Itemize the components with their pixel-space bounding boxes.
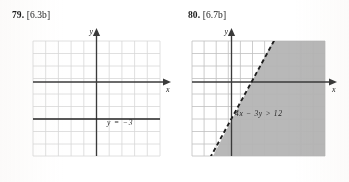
exercise-panel-79: 79. [6.3b] [0, 0, 175, 182]
graph-79-x-axis-label: x [165, 85, 170, 94]
graph-80-svg: y x 4x − 3y > 12 [174, 0, 349, 182]
graph-79-svg: y x y = −3 [0, 0, 175, 182]
graph-79-y-axis [93, 28, 100, 156]
graph-80-y-axis-label: y [224, 27, 229, 36]
exercise-panel-80: 80. [6.7b] [174, 0, 349, 182]
exercise-80-graph: y x 4x − 3y > 12 [174, 0, 349, 182]
graph-79-equation-label: y = −3 [106, 118, 133, 127]
graph-79-x-axis [33, 78, 171, 85]
graph-79-y-axis-label: y [89, 27, 94, 36]
graph-80-x-axis-label: x [331, 85, 336, 94]
exercise-79-graph: y x y = −3 [0, 0, 175, 182]
graph-80-shaded-region [213, 41, 325, 156]
graph-80-inequality-label: 4x − 3y > 12 [235, 109, 283, 118]
